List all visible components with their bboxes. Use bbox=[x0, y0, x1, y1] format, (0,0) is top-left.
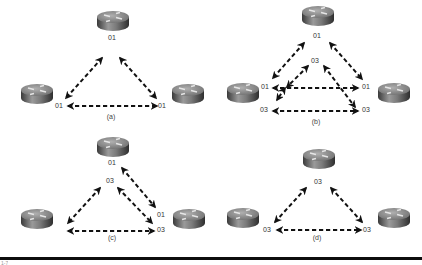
bidirectional-arrow bbox=[120, 58, 156, 98]
router-icon-top bbox=[303, 149, 335, 169]
router-icon-top bbox=[302, 6, 334, 26]
bidirectional-arrow bbox=[287, 66, 308, 87]
bidirectional-arrow bbox=[330, 43, 362, 79]
interface-label: 01 bbox=[108, 34, 116, 41]
router-icon-left bbox=[21, 84, 53, 104]
interface-label: 01 bbox=[313, 32, 321, 39]
bottom-caption: 1-7 bbox=[1, 261, 8, 265]
router-icon-left bbox=[227, 208, 259, 228]
interface-label: 01 bbox=[362, 83, 370, 90]
panel-d: 030303(d) bbox=[227, 149, 410, 242]
bidirectional-arrow bbox=[331, 188, 362, 222]
router-icon-left bbox=[227, 83, 259, 103]
router-icon-right bbox=[378, 83, 410, 103]
bidirectional-arrow bbox=[68, 188, 100, 223]
interface-label: 03 bbox=[311, 57, 319, 64]
router-topology-figure: 010101(a)010301030103(b)01030103(c)03030… bbox=[0, 0, 422, 265]
panel-c: 01030103(c) bbox=[21, 137, 205, 242]
bidirectional-arrow bbox=[66, 58, 102, 98]
panel-a: 010101(a) bbox=[21, 11, 204, 121]
interface-label: 01 bbox=[108, 159, 116, 166]
interface-label: 03 bbox=[314, 178, 322, 185]
panels-layer: 010101(a)010301030103(b)01030103(c)03030… bbox=[21, 6, 410, 242]
bottom-rule bbox=[0, 257, 422, 260]
interface-label: 01 bbox=[157, 211, 165, 218]
router-icon-right bbox=[173, 209, 205, 229]
panel-caption: (b) bbox=[312, 118, 321, 126]
interface-label: 01 bbox=[55, 102, 63, 109]
bidirectional-arrow bbox=[118, 188, 152, 223]
bidirectional-arrow bbox=[273, 43, 304, 78]
router-icon-right bbox=[172, 84, 204, 104]
router-icon-left bbox=[21, 209, 53, 229]
interface-label: 03 bbox=[363, 226, 371, 233]
panel-caption: (d) bbox=[313, 234, 322, 242]
panel-caption: (a) bbox=[107, 113, 116, 121]
panel-b: 010301030103(b) bbox=[227, 6, 410, 126]
bidirectional-arrow bbox=[324, 66, 355, 107]
router-icon-top bbox=[97, 11, 129, 31]
interface-label: 03 bbox=[260, 106, 268, 113]
router-icon-top bbox=[97, 137, 129, 157]
interface-label: 01 bbox=[261, 83, 269, 90]
panel-caption: (c) bbox=[108, 234, 116, 242]
interface-label: 01 bbox=[158, 102, 166, 109]
bidirectional-arrow bbox=[277, 88, 285, 100]
bidirectional-arrow bbox=[275, 188, 306, 222]
router-icon-right bbox=[378, 208, 410, 228]
interface-label: 03 bbox=[263, 226, 271, 233]
interface-label: 03 bbox=[106, 177, 114, 184]
interface-label: 03 bbox=[157, 226, 165, 233]
bidirectional-arrow bbox=[122, 168, 155, 207]
interface-label: 03 bbox=[362, 106, 370, 113]
